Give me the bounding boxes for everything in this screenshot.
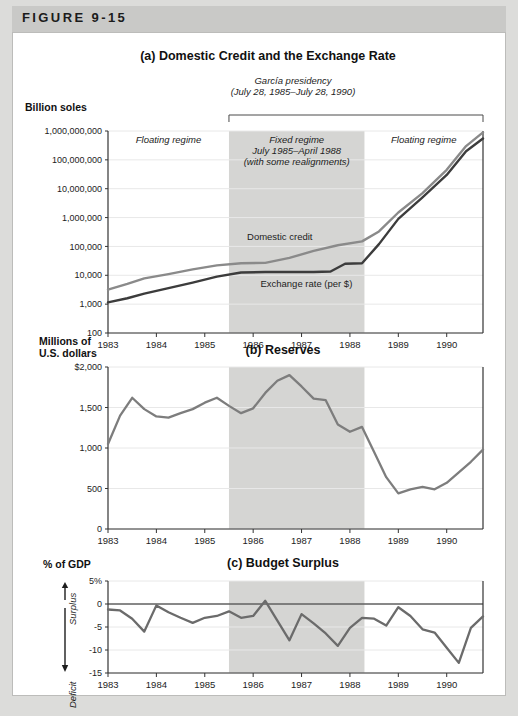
y-tick-label: 1,000 — [79, 299, 102, 309]
surplus-arrowhead-icon — [62, 582, 68, 588]
y-tick-label: $2,000 — [74, 362, 102, 372]
y-tick-label: 10,000,000 — [57, 184, 102, 194]
x-tick-label: 1987 — [291, 679, 312, 690]
panel-b-y-axis-title-line2: U.S. dollars — [39, 347, 97, 359]
garcia-presidency-bracket — [229, 115, 483, 122]
figure-card: (a) Domestic Credit and the Exchange Rat… — [12, 32, 506, 696]
x-tick-label: 1989 — [388, 535, 409, 546]
x-tick-label: 1988 — [339, 679, 360, 690]
svg-text:Fixed regime: Fixed regime — [269, 134, 324, 145]
panel-c-title: (c) Budget Surplus — [133, 556, 433, 570]
x-tick-label: 1984 — [146, 535, 167, 546]
deficit-arrowhead-icon — [62, 665, 68, 672]
y-tick-label: 1,000 — [79, 443, 102, 453]
figure-label: FIGURE 9-15 — [22, 10, 127, 25]
y-tick-label: 5% — [89, 576, 102, 586]
svg-text:Domestic credit: Domestic credit — [247, 231, 313, 242]
y-tick-label: 0 — [97, 524, 102, 534]
x-tick-label: 1990 — [436, 535, 457, 546]
y-tick-label: 0 — [97, 599, 102, 609]
svg-text:Exchange rate (per $): Exchange rate (per $) — [260, 278, 352, 289]
panel-a-bracket-line1: García presidency — [163, 75, 423, 86]
panel-a-title: (a) Domestic Credit and the Exchange Rat… — [43, 49, 493, 63]
y-tick-label: 500 — [87, 484, 102, 494]
panel-b-title: (b) Reserves — [133, 343, 433, 357]
x-tick-label: 1990 — [436, 339, 457, 350]
y-tick-label: -10 — [89, 645, 102, 655]
svg-text:Floating regime: Floating regime — [391, 134, 456, 145]
svg-text:(with some realignments): (with some realignments) — [244, 156, 350, 167]
x-tick-label: 1985 — [194, 535, 215, 546]
panel-a-plot: 1,000,000,000100,000,00010,000,0001,000,… — [13, 93, 507, 353]
x-tick-label: 1983 — [97, 339, 118, 350]
y-tick-label: -15 — [89, 668, 102, 678]
panel-c-y-axis-title: % of GDP — [43, 558, 91, 570]
svg-text:July 1985–April 1988: July 1985–April 1988 — [251, 145, 341, 156]
y-tick-label: 1,000,000,000 — [44, 126, 102, 136]
panel-c-plot: 5%0-5-10-1519831984198519861987198819891… — [13, 573, 507, 698]
x-tick-label: 1990 — [436, 679, 457, 690]
x-tick-label: 1989 — [388, 679, 409, 690]
x-tick-label: 1984 — [146, 679, 167, 690]
x-tick-label: 1987 — [291, 535, 312, 546]
x-tick-label: 1986 — [243, 679, 264, 690]
y-tick-label: 100,000 — [69, 242, 102, 252]
figure-root: FIGURE 9-15 (a) Domestic Credit and the … — [0, 0, 518, 716]
y-tick-label: -5 — [94, 622, 102, 632]
x-tick-label: 1985 — [194, 679, 215, 690]
y-tick-label: 1,500 — [79, 403, 102, 413]
panel-b-plot: $2,0001,5001,000500019831984198519861987… — [13, 359, 507, 559]
panel-b-y-axis-title-line1: Millions of — [39, 335, 91, 347]
x-tick-label: 1986 — [243, 535, 264, 546]
y-tick-label: 10,000 — [74, 270, 102, 280]
y-tick-label: 1,000,000 — [62, 213, 102, 223]
x-tick-label: 1983 — [97, 535, 118, 546]
x-tick-label: 1988 — [339, 535, 360, 546]
y-tick-label: 100,000,000 — [52, 155, 102, 165]
svg-text:Floating regime: Floating regime — [136, 134, 201, 145]
x-tick-label: 1983 — [97, 679, 118, 690]
